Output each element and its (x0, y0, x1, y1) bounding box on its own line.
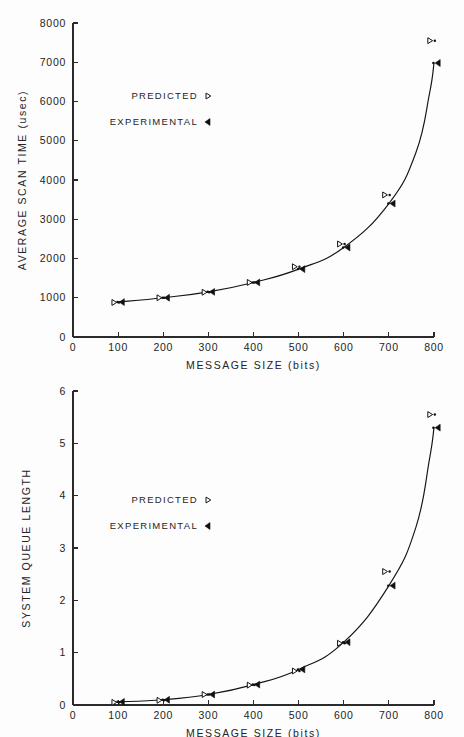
data-point-predicted (383, 569, 391, 575)
predicted-marker-icon (383, 192, 388, 198)
data-point-experimental (342, 244, 350, 251)
x-tick-label: 300 (199, 341, 219, 353)
x-axis-title: MESSAGE SIZE (bits) (186, 727, 321, 737)
data-point-experimental (252, 279, 260, 286)
legend-label: PREDICTED (131, 90, 198, 101)
x-tick-label: 600 (334, 709, 354, 721)
predicted-marker-icon (428, 412, 433, 418)
x-tick-label: 700 (379, 341, 399, 353)
predicted-marker-icon (202, 692, 207, 698)
x-tick-label: 300 (199, 709, 219, 721)
experimental-center-dot (161, 699, 164, 702)
chart-panel-system-queue-length: 01234560100200300400500600700800MESSAGE … (0, 370, 464, 737)
y-tick-label: 4000 (40, 174, 66, 186)
y-tick-label: 2000 (40, 252, 66, 264)
chart-panel-average-scan-time: 0100020003000400050006000700080000100200… (0, 0, 464, 370)
experimental-center-dot (252, 683, 255, 686)
predicted-center-dot (388, 194, 391, 197)
legend-predicted-marker-icon (206, 497, 211, 503)
legend-experimental-marker-icon (205, 523, 210, 530)
y-tick-label: 0 (59, 331, 66, 343)
data-point-experimental (207, 288, 215, 295)
x-tick-label: 100 (108, 709, 128, 721)
experimental-center-dot (432, 62, 435, 65)
legend-experimental-marker-icon (205, 119, 210, 126)
chart-average-scan-time: 0100020003000400050006000700080000100200… (0, 0, 464, 370)
y-tick-label: 4 (59, 489, 66, 501)
experimental-marker-icon (300, 666, 305, 673)
data-point-experimental (161, 294, 169, 301)
x-tick-label: 700 (379, 709, 399, 721)
predicted-marker-icon (157, 295, 162, 301)
x-tick-label: 600 (334, 341, 354, 353)
data-point-predicted (112, 300, 120, 306)
x-tick-label: 800 (424, 341, 444, 353)
x-tick-label: 800 (424, 709, 444, 721)
predicted-marker-icon (292, 668, 297, 674)
predicted-marker-icon (292, 264, 297, 270)
y-axis-title: AVERAGE SCAN TIME (usec) (16, 90, 28, 270)
y-tick-label: 6000 (40, 95, 66, 107)
x-tick-label: 100 (108, 341, 128, 353)
experimental-center-dot (297, 668, 300, 671)
experimental-center-dot (342, 641, 345, 644)
x-tick-label: 200 (153, 341, 173, 353)
figure-page: 0100020003000400050006000700080000100200… (0, 0, 464, 737)
x-tick-label: 200 (153, 709, 173, 721)
y-tick-label: 3000 (40, 213, 66, 225)
data-point-predicted (247, 682, 255, 688)
data-point-predicted (202, 289, 210, 295)
legend-predicted-marker-icon (206, 93, 211, 99)
y-tick-label: 2 (59, 594, 66, 606)
y-tick-label: 0 (59, 699, 66, 711)
y-tick-label: 3 (59, 542, 66, 554)
x-tick-label: 0 (70, 709, 77, 721)
data-point-experimental (297, 666, 305, 673)
predicted-marker-icon (428, 38, 433, 44)
experimental-marker-icon (210, 691, 215, 698)
predicted-center-dot (343, 243, 346, 246)
x-tick-label: 500 (289, 709, 309, 721)
legend-label: EXPERIMENTAL (110, 116, 198, 127)
predicted-center-dot (434, 413, 437, 416)
data-point-predicted (428, 38, 436, 44)
data-point-predicted (338, 241, 346, 247)
x-tick-label: 400 (244, 709, 264, 721)
experimental-center-dot (297, 268, 300, 271)
x-tick-label: 400 (244, 341, 264, 353)
experimental-marker-icon (255, 681, 260, 688)
y-tick-label: 1 (59, 646, 66, 658)
experimental-marker-icon (119, 698, 124, 705)
experimental-center-dot (432, 426, 435, 429)
predicted-marker-icon (112, 300, 117, 306)
experimental-marker-icon (119, 299, 124, 306)
x-tick-label: 500 (289, 341, 309, 353)
predicted-marker-icon (383, 569, 388, 575)
predicted-center-dot (434, 39, 437, 42)
predicted-center-dot (298, 265, 301, 268)
data-point-experimental (116, 698, 124, 705)
y-tick-label: 6 (59, 385, 66, 397)
experimental-marker-icon (435, 424, 440, 431)
data-point-experimental (161, 696, 169, 703)
experimental-center-dot (116, 701, 119, 704)
data-point-predicted (428, 412, 436, 418)
experimental-center-dot (207, 291, 210, 294)
y-tick-label: 1000 (40, 291, 66, 303)
experimental-marker-icon (210, 288, 215, 295)
legend-label: EXPERIMENTAL (110, 520, 198, 531)
data-point-predicted (112, 699, 120, 705)
experimental-center-dot (116, 301, 119, 304)
data-point-experimental (207, 691, 215, 698)
chart-system-queue-length: 01234560100200300400500600700800MESSAGE … (0, 370, 464, 737)
data-point-predicted (157, 697, 165, 703)
experimental-center-dot (387, 202, 390, 205)
experimental-marker-icon (435, 60, 440, 67)
data-point-predicted (383, 192, 391, 198)
predicted-marker-icon (202, 289, 207, 295)
experimental-center-dot (161, 297, 164, 300)
predicted-marker-icon (157, 697, 162, 703)
experimental-marker-icon (255, 279, 260, 286)
data-point-experimental (116, 299, 124, 306)
predicted-marker-icon (112, 699, 117, 705)
